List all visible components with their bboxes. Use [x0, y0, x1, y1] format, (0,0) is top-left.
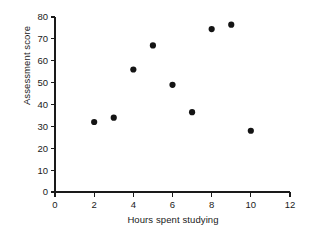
y-tick-label: 20 [37, 143, 48, 154]
y-tick-label: 60 [37, 55, 48, 66]
x-tick-label: 8 [209, 199, 214, 210]
data-point-marker [209, 26, 215, 32]
y-axis: 01020304050607080 [37, 11, 55, 197]
data-point-marker [248, 128, 254, 134]
data-point-marker [189, 109, 195, 115]
y-tick-label: 10 [37, 165, 48, 176]
x-tick-label: 2 [92, 199, 97, 210]
x-tick-label: 10 [246, 199, 257, 210]
data-point-marker [228, 22, 234, 28]
data-point-marker [169, 82, 175, 88]
y-tick-label: 0 [43, 186, 48, 197]
x-tick-label: 6 [170, 199, 175, 210]
scatter-chart: Assessment score Hours spent studying 01… [0, 0, 315, 237]
x-tick-label: 0 [52, 199, 57, 210]
data-point-marker [150, 42, 156, 48]
y-tick-label: 30 [37, 121, 48, 132]
y-tick-label: 80 [37, 11, 48, 22]
x-axis: 024681012 [52, 192, 295, 210]
data-points [91, 22, 254, 134]
x-tick-label: 12 [285, 199, 296, 210]
plot-area: 01020304050607080 024681012 [0, 0, 315, 237]
y-tick-label: 40 [37, 99, 48, 110]
y-tick-label: 50 [37, 77, 48, 88]
data-point-marker [130, 66, 136, 72]
data-point-marker [111, 115, 117, 121]
y-tick-label: 70 [37, 33, 48, 44]
x-tick-label: 4 [131, 199, 136, 210]
data-point-marker [91, 119, 97, 125]
